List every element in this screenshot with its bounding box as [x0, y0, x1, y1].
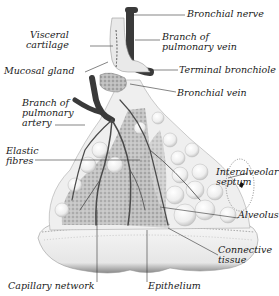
- terminal-bronchiole: [100, 18, 150, 92]
- label-branch-pulmonary-vein: Branch of pulmonary vein: [162, 32, 237, 52]
- label-terminal-bronchiole: Terminal bronchiole: [179, 65, 276, 75]
- label-connective-tissue: Connective tissue: [218, 245, 272, 265]
- label-epithelium: Epithelium: [148, 281, 201, 291]
- label-visceral-cartilage: Visceral cartilage: [26, 30, 69, 50]
- label-mucosal-gland: Mucosal gland: [4, 66, 74, 76]
- label-branch-pulmonary-artery: Branch of pulmonary artery: [22, 98, 74, 128]
- label-interalveolar-septum: Interalveolar septum: [216, 167, 279, 187]
- label-elastic-fibres: Elastic fibres: [6, 146, 39, 166]
- label-alveolus: Alveolus: [238, 210, 279, 220]
- label-capillary-network: Capillary network: [8, 281, 94, 291]
- label-bronchial-vein: Bronchial vein: [177, 88, 247, 98]
- lung-alveolus-diagram: Bronchial nerve Visceral cartilage Branc…: [0, 0, 279, 296]
- label-bronchial-nerve: Bronchial nerve: [187, 9, 264, 19]
